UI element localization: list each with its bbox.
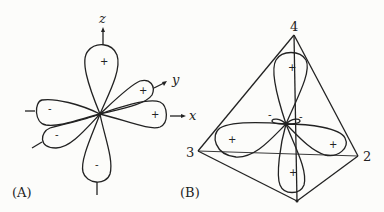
sign-y-positive: + <box>139 86 147 96</box>
sign-small-left: - <box>268 110 272 120</box>
sign-y-negative: - <box>55 130 59 140</box>
edge-3-front <box>198 151 297 201</box>
panel-b-drawing <box>198 35 358 203</box>
x-axis-label: x <box>189 109 196 122</box>
vertex-4-label: 4 <box>290 20 298 33</box>
sign-x-negative: - <box>48 104 52 114</box>
orbital-diagram <box>0 0 384 212</box>
sign-z-positive: + <box>100 57 108 67</box>
edge-4-3 <box>198 35 294 151</box>
vertex-3-label: 3 <box>186 146 194 159</box>
neg-y-axis <box>32 142 42 148</box>
lobe-down <box>278 124 304 193</box>
sign-down: + <box>289 168 297 178</box>
y-axis-label: y <box>172 73 179 86</box>
sign-x-positive: + <box>151 110 159 120</box>
sign-right: + <box>329 140 337 150</box>
edge-2-front <box>297 156 358 201</box>
panel-b-label: (B) <box>180 186 200 199</box>
sign-left: + <box>228 135 236 145</box>
panel-a-label: (A) <box>12 186 32 199</box>
sign-z-negative: - <box>95 160 99 170</box>
lobe-y-negative <box>42 114 100 148</box>
vertex-2-label: 2 <box>363 150 371 163</box>
sign-small-right: - <box>299 112 303 122</box>
z-axis-label: z <box>99 12 106 25</box>
edge-4-2 <box>294 35 358 156</box>
sign-up: + <box>288 63 296 73</box>
y-axis <box>154 83 164 88</box>
lobe-x-negative <box>36 100 100 126</box>
lobe-z-negative <box>83 114 111 182</box>
